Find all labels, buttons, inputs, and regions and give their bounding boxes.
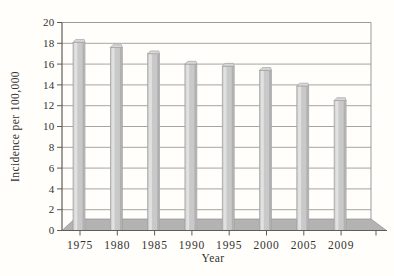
- y-tick-label-4: 4: [49, 183, 55, 195]
- x-tick-label-1990: 1990: [179, 239, 205, 251]
- x-tick-label-2009: 2009: [328, 239, 354, 251]
- bar-highlight: [224, 67, 227, 230]
- gridlines: [62, 23, 371, 220]
- bar-top-cap: [297, 83, 309, 86]
- y-tick-label-2: 2: [49, 203, 55, 215]
- y-tick-label-16: 16: [43, 58, 55, 70]
- bar-1995: [222, 63, 234, 230]
- bar-1985: [148, 51, 160, 231]
- bar-shade: [157, 54, 159, 230]
- bars: [73, 39, 346, 230]
- x-tick-label-1985: 1985: [141, 239, 167, 251]
- bar-top-cap: [260, 68, 272, 71]
- bar-top-cap: [110, 45, 122, 48]
- y-tick-label-20: 20: [43, 16, 55, 28]
- x-tick-label-2005: 2005: [291, 239, 317, 251]
- x-axis-title: Year: [202, 252, 225, 264]
- y-tick-label-12: 12: [43, 99, 55, 111]
- bar-highlight: [335, 101, 338, 230]
- bar-highlight: [112, 48, 115, 230]
- bar-shade: [83, 43, 85, 230]
- figure-container: 02468101214161820 1975198019851990199520…: [0, 0, 394, 276]
- bar-shade: [306, 87, 308, 230]
- bar-highlight: [74, 43, 77, 230]
- incidence-bar-chart: 02468101214161820 1975198019851990199520…: [0, 0, 394, 276]
- x-tick-labels: 19751980198519901995200020052009: [67, 239, 354, 251]
- x-tick-label-2000: 2000: [253, 239, 279, 251]
- bar-2009: [334, 98, 346, 231]
- bar-shade: [344, 101, 346, 230]
- y-tick-label-0: 0: [49, 224, 55, 236]
- x-tick-label-1975: 1975: [67, 239, 93, 251]
- y-tick-label-18: 18: [43, 37, 55, 49]
- bar-1980: [110, 45, 122, 231]
- y-tick-label-14: 14: [43, 79, 55, 91]
- bar-shade: [120, 48, 122, 230]
- bar-2000: [260, 68, 272, 231]
- bar-top-cap: [73, 39, 85, 42]
- y-tick-labels: 02468101214161820: [43, 16, 55, 236]
- x-tick-label-1995: 1995: [216, 239, 242, 251]
- bar-shade: [269, 71, 271, 230]
- bar-highlight: [298, 87, 301, 230]
- bar-shade: [195, 65, 197, 230]
- bar-highlight: [186, 65, 189, 230]
- bar-1990: [185, 61, 197, 230]
- bar-highlight: [149, 54, 152, 230]
- bar-2005: [297, 83, 309, 230]
- bar-shade: [232, 67, 234, 230]
- bar-highlight: [261, 71, 264, 230]
- bar-top-cap: [148, 51, 160, 54]
- bar-top-cap: [334, 98, 346, 101]
- y-tick-label-10: 10: [43, 120, 55, 132]
- bar-1975: [73, 39, 85, 230]
- x-tick-label-1980: 1980: [104, 239, 130, 251]
- y-tick-label-8: 8: [49, 141, 55, 153]
- y-tick-label-6: 6: [49, 162, 55, 174]
- bar-top-cap: [185, 61, 197, 64]
- y-axis-title: Incidence per 100,000: [9, 71, 22, 182]
